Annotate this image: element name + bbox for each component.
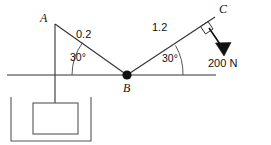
point-b-marker xyxy=(122,70,131,79)
force-arrow-head-icon xyxy=(216,43,232,57)
force-label: 200 N xyxy=(208,58,237,69)
point-label-a: A xyxy=(40,12,47,24)
length-label-ab: 0.2 xyxy=(76,29,91,40)
statics-diagram: A B C 0.2 1.2 30° 30° 200 N xyxy=(0,0,271,145)
angle-label-right: 30° xyxy=(162,53,178,64)
length-label-bc: 1.2 xyxy=(152,22,167,33)
angle-label-left: 30° xyxy=(70,52,86,63)
point-label-b: B xyxy=(123,82,130,94)
suspended-block-outline xyxy=(33,103,78,134)
point-label-c: C xyxy=(219,3,227,15)
